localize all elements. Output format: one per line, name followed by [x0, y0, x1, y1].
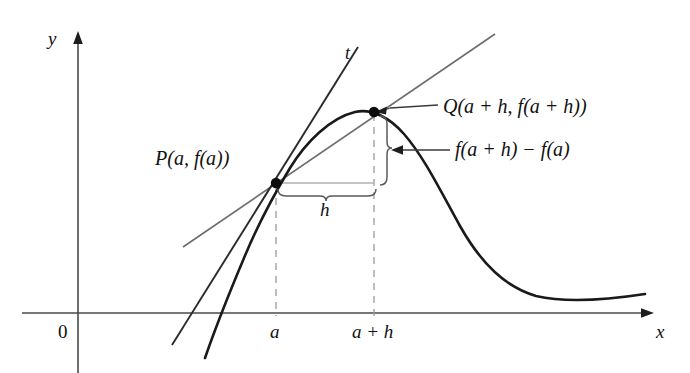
run-label-h: h: [320, 200, 330, 219]
x-axis-arrowhead: [641, 308, 654, 318]
derivative-secant-tangent-figure: y x 0 a a + h t h P(a, f(a)) Q(a + h, f(…: [0, 0, 690, 373]
rise-label-difference: f(a + h) − f(a): [455, 139, 570, 159]
point-label-q: Q(a + h, f(a + h)): [443, 96, 587, 116]
point-label-p: P(a, f(a)): [155, 148, 229, 168]
leader-arrow-to-rise: [391, 145, 450, 155]
vertical-brace-rise: [380, 116, 392, 185]
origin-label: 0: [58, 322, 68, 341]
y-axis-label: y: [48, 29, 56, 48]
leader-arrow-to-q: [375, 105, 438, 115]
x-tick-label-a: a: [270, 322, 280, 341]
tangent-line-label: t: [345, 44, 350, 62]
y-axis-arrowhead: [73, 31, 83, 44]
x-axis-label: x: [656, 322, 664, 341]
secant-line-pq: [183, 34, 495, 247]
point-marker-q: [369, 107, 379, 117]
x-tick-label-a-plus-h: a + h: [352, 322, 393, 341]
point-marker-p: [271, 178, 281, 188]
axes-group: [22, 31, 654, 373]
